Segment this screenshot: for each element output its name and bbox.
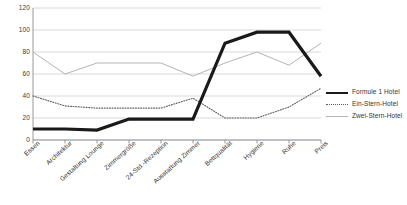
y-axis: 120100806040200 bbox=[0, 0, 30, 205]
legend-label: Ein-Stern-Hotel bbox=[352, 100, 398, 107]
plot-area bbox=[33, 8, 321, 140]
x-tick-label-text: Bettqualität bbox=[204, 140, 233, 167]
x-tick-label-text: Preis bbox=[314, 140, 330, 155]
y-tick-label: 60 bbox=[4, 71, 30, 78]
x-tick-label-text: Hygiene bbox=[243, 140, 266, 161]
y-tick-label: 100 bbox=[4, 27, 30, 34]
chart-legend: Formule 1 HotelEin-Stern-HotelZwei-Stern… bbox=[326, 86, 407, 122]
x-tick-label-text: Architektur bbox=[45, 140, 73, 166]
x-axis: EssenArchitekturGestaltung LoungeZimmerg… bbox=[33, 140, 333, 205]
legend-swatch-icon bbox=[326, 89, 348, 95]
series-line bbox=[33, 88, 321, 118]
series-line bbox=[33, 43, 321, 76]
series-line bbox=[33, 32, 321, 130]
y-tick-label: 0 bbox=[4, 137, 30, 144]
legend-item[interactable]: Zwei-Stern-Hotel bbox=[326, 110, 407, 121]
x-tick-label: Hygiene bbox=[243, 140, 266, 161]
y-tick-label: 120 bbox=[4, 5, 30, 12]
y-tick-label: 80 bbox=[4, 49, 30, 56]
x-tick-label: Ruhe bbox=[281, 140, 297, 156]
x-tick-label: Preis bbox=[314, 140, 330, 155]
legend-item[interactable]: Ein-Stern-Hotel bbox=[326, 98, 407, 109]
chart-canvas bbox=[33, 8, 321, 140]
x-tick-label-text: Ruhe bbox=[281, 140, 297, 156]
legend-label: Formule 1 Hotel bbox=[352, 88, 400, 95]
y-tick-label: 20 bbox=[4, 115, 30, 122]
chart-screenshot: 120100806040200 EssenArchitekturGestaltu… bbox=[0, 0, 407, 205]
legend-label: Zwei-Stern-Hotel bbox=[352, 112, 402, 119]
x-tick-label: Architektur bbox=[45, 140, 73, 166]
legend-item[interactable]: Formule 1 Hotel bbox=[326, 86, 407, 97]
legend-swatch-icon bbox=[326, 101, 348, 107]
y-tick-label: 40 bbox=[4, 93, 30, 100]
legend-swatch-icon bbox=[326, 113, 348, 119]
x-tick-label: Bettqualität bbox=[204, 140, 233, 167]
